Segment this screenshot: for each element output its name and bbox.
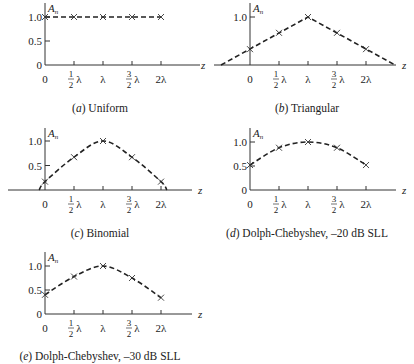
y-tick-label: 0	[242, 184, 248, 196]
y-tick-label: 0.5	[28, 284, 42, 296]
tick-denominator: 2	[332, 205, 337, 215]
x-marker-icon	[129, 154, 135, 160]
y-axis-label: An	[47, 2, 59, 16]
tick-denominator: 2	[127, 329, 132, 339]
x-tick-label: λ	[100, 73, 106, 85]
y-tick-label: 1.0	[28, 135, 42, 147]
x-tick-label: 0	[42, 198, 48, 210]
tick-numerator: 3	[332, 69, 337, 79]
x-marker-icon	[363, 162, 369, 168]
tick-numerator: 1	[274, 194, 279, 204]
x-marker-icon	[158, 295, 164, 301]
tick-lambda: λ	[339, 73, 345, 85]
tick-denominator: 2	[69, 205, 74, 215]
amplitude-curve	[221, 17, 395, 65]
tick-denominator: 2	[69, 80, 74, 90]
panel-caption: (a) Uniform	[72, 102, 128, 115]
y-axis-label: An	[252, 2, 264, 16]
panel-a: Anz012λλ32λ2λ00.51.0(a) Uniform	[28, 2, 206, 115]
y-tick-label: 0.5	[28, 160, 42, 172]
x-tick-label: λ	[305, 73, 311, 85]
y-tick-label: 0	[37, 308, 43, 320]
x-tick-label: 2λ	[156, 198, 168, 210]
amplitude-curve	[250, 142, 366, 165]
panel-caption: (e) Dolph-Chebyshev, –30 dB SLL	[19, 350, 180, 363]
tick-lambda: λ	[281, 73, 287, 85]
x-axis-label: z	[401, 184, 407, 196]
tick-denominator: 2	[127, 205, 132, 215]
x-tick-label: 0	[42, 322, 48, 334]
panel-c: Anz012λλ32λ2λ0.51.0(c) Binomial	[8, 127, 203, 240]
y-tick-label: 1.0	[28, 11, 42, 23]
y-axis-label: An	[47, 127, 59, 141]
tick-lambda: λ	[134, 198, 140, 210]
x-tick-label: 2λ	[361, 198, 373, 210]
x-marker-icon	[334, 30, 340, 36]
panel-b: Anz012λλ32λ2λ1.0(b) Triangular	[214, 2, 407, 115]
tick-denominator: 2	[332, 80, 337, 90]
y-tick-label: 1.0	[233, 136, 247, 148]
array-amplitude-distribution-figure: Anz012λλ32λ2λ00.51.0(a) Uniform Anz012λλ…	[0, 0, 414, 364]
tick-denominator: 2	[274, 80, 279, 90]
y-tick-label: 0.5	[28, 35, 42, 47]
panel-e: Anz012λλ32λ2λ00.51.0(e) Dolph-Chebyshev,…	[19, 251, 203, 363]
x-tick-label: λ	[305, 198, 311, 210]
x-tick-label: 0	[247, 198, 253, 210]
x-tick-label: λ	[100, 198, 106, 210]
x-axis-label: z	[197, 184, 203, 196]
y-tick-label: 1.0	[28, 260, 42, 272]
tick-denominator: 2	[127, 80, 132, 90]
tick-lambda: λ	[281, 198, 287, 210]
x-marker-icon	[363, 46, 369, 52]
x-tick-label: 0	[42, 73, 48, 85]
tick-numerator: 3	[127, 69, 132, 79]
x-axis-label: z	[200, 59, 206, 71]
tick-numerator: 3	[127, 318, 132, 328]
y-tick-label: 0	[37, 59, 43, 71]
tick-lambda: λ	[134, 73, 140, 85]
x-marker-icon	[71, 274, 77, 280]
x-axis-label: z	[401, 59, 407, 71]
amplitude-curve	[45, 266, 161, 298]
tick-denominator: 2	[274, 205, 279, 215]
panel-caption: (d) Dolph-Chebyshev, –20 dB SLL	[226, 227, 388, 240]
tick-lambda: λ	[76, 322, 82, 334]
tick-numerator: 3	[332, 194, 337, 204]
x-tick-label: 0	[247, 73, 253, 85]
tick-lambda: λ	[134, 322, 140, 334]
figure-canvas: Anz012λλ32λ2λ00.51.0(a) Uniform Anz012λλ…	[0, 0, 414, 364]
y-axis-label: An	[252, 127, 264, 141]
panel-d: Anz012λλ32λ2λ00.51.0(d) Dolph-Chebyshev,…	[226, 127, 407, 240]
y-axis-label: An	[47, 251, 59, 265]
panel-caption: (b) Triangular	[275, 102, 339, 115]
x-marker-icon	[276, 30, 282, 36]
y-tick-label: 1.0	[233, 11, 247, 23]
x-marker-icon	[158, 179, 164, 185]
tick-denominator: 2	[69, 329, 74, 339]
tick-lambda: λ	[339, 198, 345, 210]
amplitude-curve	[39, 141, 167, 190]
tick-lambda: λ	[76, 198, 82, 210]
y-tick-label: 0.5	[233, 160, 247, 172]
x-axis-label: z	[197, 308, 203, 320]
x-marker-icon	[71, 154, 77, 160]
tick-numerator: 1	[69, 318, 74, 328]
tick-numerator: 1	[69, 194, 74, 204]
x-marker-icon	[305, 14, 311, 20]
x-tick-label: 2λ	[156, 322, 168, 334]
x-tick-label: 2λ	[156, 73, 168, 85]
x-marker-icon	[129, 275, 135, 281]
x-tick-label: 2λ	[361, 73, 373, 85]
tick-numerator: 1	[274, 69, 279, 79]
tick-numerator: 3	[127, 194, 132, 204]
panel-caption: (c) Binomial	[71, 227, 129, 240]
tick-numerator: 1	[69, 69, 74, 79]
tick-lambda: λ	[76, 73, 82, 85]
x-tick-label: λ	[100, 322, 106, 334]
